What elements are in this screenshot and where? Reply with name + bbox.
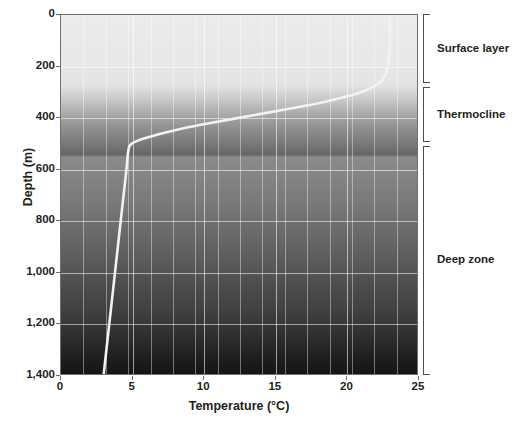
y-axis-tick-label: 1,000 [3,266,55,278]
zone-label: Surface layer [437,43,509,55]
y-axis-tick-labels: 02004006008001,0001,2001,400 [0,14,55,375]
zone-label: Deep zone [437,254,495,266]
x-axis-tick-label: 20 [326,381,366,393]
x-axis-tick-mark [418,376,419,380]
x-axis-tick-mark [132,376,133,380]
zone-bracket [423,87,430,143]
x-axis-tick-mark [275,376,276,380]
x-axis-tick-label: 0 [40,381,80,393]
x-axis-tick-label: 25 [398,381,438,393]
zone-label: Thermocline [437,109,505,121]
x-axis-tick-label: 10 [183,381,223,393]
ocean-temperature-profile-figure: Depth (m) 02004006008001,0001,2001,400 0… [0,0,517,424]
zone-annotations: Surface layerThermoclineDeep zone [420,14,517,375]
y-axis-tick-label: 200 [3,60,55,72]
y-axis-tick-label: 800 [3,214,55,226]
zone-bracket [423,14,430,83]
plot-area [60,14,418,375]
y-axis-tick-label: 0 [3,8,55,20]
x-axis-tick-label: 5 [112,381,152,393]
x-axis-tick-labels: 0510152025 [60,381,418,397]
x-axis-tick-mark [60,376,61,380]
y-axis-tick-label: 600 [3,163,55,175]
x-axis-tick-mark [203,376,204,380]
temperature-curve [61,15,417,374]
zone-bracket [423,146,430,375]
x-axis-tick-label: 15 [255,381,295,393]
y-axis-tick-label: 1,200 [3,317,55,329]
x-axis-title: Temperature (°C) [60,399,418,413]
y-axis-tick-label: 1,400 [3,369,55,381]
x-axis-tick-mark [346,376,347,380]
y-axis-tick-label: 400 [3,111,55,123]
